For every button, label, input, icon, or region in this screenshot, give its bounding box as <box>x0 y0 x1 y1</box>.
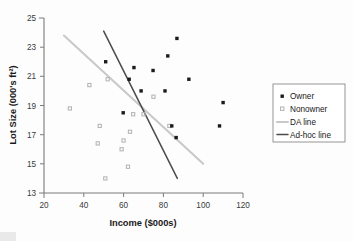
y-tick-label: 23 <box>27 43 37 52</box>
y-tick-label: 13 <box>27 189 37 198</box>
legend-label-nonowner: Nonowner <box>290 105 328 114</box>
legend-label-da-line: DA line <box>290 118 316 127</box>
y-tick-label: 19 <box>27 102 37 111</box>
data-point <box>139 89 142 92</box>
x-tick-label: 20 <box>39 201 49 210</box>
data-point <box>218 124 221 127</box>
x-axis-title: Income ($000s) <box>109 218 176 228</box>
data-point <box>104 60 107 63</box>
data-point <box>170 124 173 127</box>
y-tick-label: 21 <box>27 72 37 81</box>
y-axis-title: Lot Size (000's ft²) <box>8 65 18 144</box>
data-point <box>127 78 130 81</box>
data-point <box>132 66 135 69</box>
x-tick-label: 100 <box>196 201 210 210</box>
legend-label-owner: Owner <box>290 92 314 101</box>
chart-legend: Owner Nonowner DA line Ad-hoc line <box>273 84 345 142</box>
chart-svg: 25 23 21 19 17 15 13 20 40 60 80 100 120… <box>0 0 353 241</box>
y-tick-label: 25 <box>27 14 37 23</box>
x-tick-label: 80 <box>159 201 169 210</box>
legend-marker-owner <box>281 95 284 98</box>
x-tick-label: 120 <box>236 201 250 210</box>
data-point <box>166 54 169 57</box>
data-point <box>187 78 190 81</box>
data-point <box>175 37 178 40</box>
data-point <box>122 111 125 114</box>
data-point <box>174 136 177 139</box>
scatter-chart-figure: 25 23 21 19 17 15 13 20 40 60 80 100 120… <box>0 0 353 241</box>
legend-label-adhoc-line: Ad-hoc line <box>290 131 331 140</box>
data-point <box>163 89 166 92</box>
y-tick-label: 15 <box>27 160 37 169</box>
y-tick-label: 17 <box>27 131 37 140</box>
x-tick-label: 40 <box>79 201 89 210</box>
data-point <box>221 101 224 104</box>
x-tick-label: 60 <box>119 201 129 210</box>
scan-artifact <box>0 232 16 241</box>
data-point <box>151 69 154 72</box>
